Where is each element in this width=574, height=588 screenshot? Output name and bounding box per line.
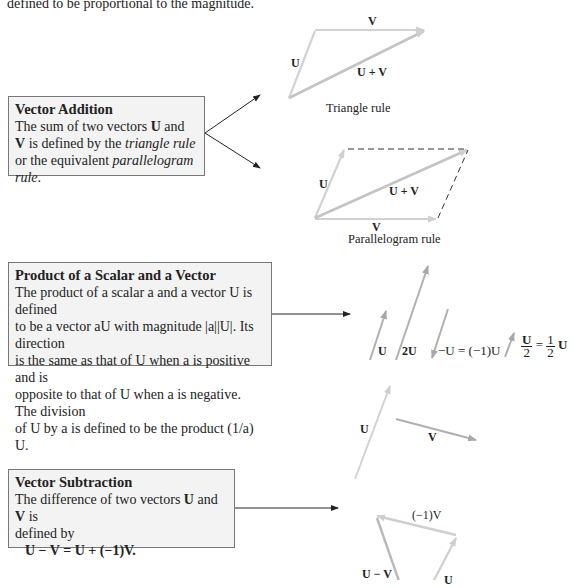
scalar-label-negU: −U = (−1)U [438, 343, 500, 359]
triangle-caption: Triangle rule [326, 101, 390, 116]
parallelogram-label-sum: U + V [389, 184, 419, 199]
scalar-label-half: U2 = 12 U [521, 334, 567, 359]
pointer-arrows-addition [205, 95, 260, 168]
subtraction-label-V: V [428, 430, 437, 445]
parallelogram-caption: Parallelogram rule [348, 232, 441, 247]
triangle-label-U: U [291, 56, 300, 71]
scalar-label-U: U [378, 344, 387, 359]
scalar-label-2U: 2U [402, 344, 417, 359]
subtraction-inputs-diagram [355, 386, 476, 479]
parallelogram-label-U: U [319, 177, 328, 192]
triangle-label-sum: U + V [357, 65, 387, 80]
subtraction-label-U: U [360, 422, 369, 437]
subtraction-label-diff: U − V [362, 567, 392, 582]
triangle-label-V: V [368, 14, 377, 29]
subtraction-label-U-bottom: U [444, 573, 453, 588]
triangle-rule-diagram [289, 30, 424, 98]
subtraction-label-negV: (−1)V [412, 508, 441, 523]
